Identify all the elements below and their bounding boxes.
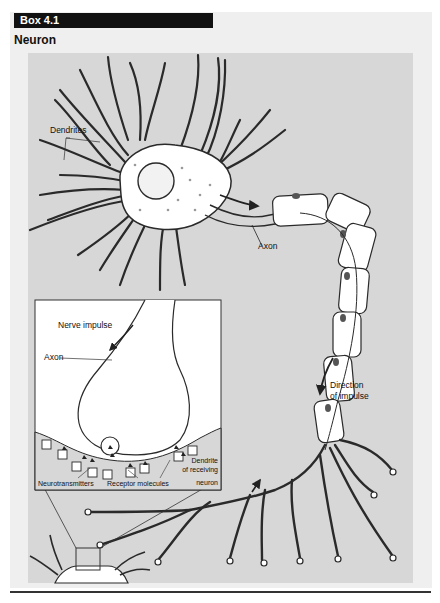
neuron-illustration bbox=[0, 0, 440, 603]
inset-label-dendrite-line2: of receiving bbox=[172, 466, 218, 474]
impulse-arrow bbox=[220, 195, 258, 206]
label-direction-line1: Direction bbox=[330, 380, 364, 390]
label-dendrites: Dendrites bbox=[50, 125, 86, 135]
inset-label-dendrite-line3: neuron bbox=[186, 479, 218, 487]
inset-label-nerve-impulse: Nerve impulse bbox=[58, 320, 112, 330]
nucleus bbox=[138, 163, 174, 199]
inset-label-receptor-molecules: Receptor molecules bbox=[107, 479, 169, 489]
inset-label-axon: Axon bbox=[44, 352, 63, 362]
myelin-sheath bbox=[272, 191, 377, 444]
bottom-rule bbox=[10, 591, 431, 593]
inset-label-neurotransmitters: Neurotransmitters bbox=[38, 479, 94, 489]
label-axon: Axon bbox=[258, 241, 277, 251]
inset-label-dendrite-line1: Dendrite bbox=[186, 457, 218, 465]
cell-body bbox=[120, 144, 231, 229]
label-direction-line2: of impulse bbox=[330, 391, 369, 401]
